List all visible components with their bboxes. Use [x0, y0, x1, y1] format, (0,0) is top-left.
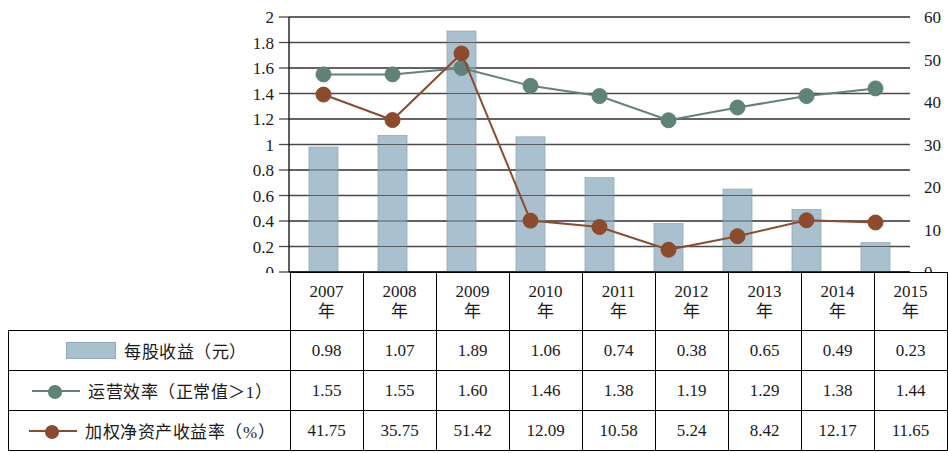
table-cell: 51.42: [436, 411, 509, 451]
table-cell: 5.24: [655, 411, 728, 451]
year-text-part: 年: [437, 302, 509, 321]
table-cell: 12.17: [801, 411, 874, 451]
table-cell: 0.23: [874, 331, 947, 371]
table-header-year-2013年: 2013年: [728, 273, 801, 331]
marker-2009年: [454, 46, 469, 61]
table-cell: 1.46: [509, 371, 582, 411]
marker-2011年: [592, 220, 607, 235]
table-cell: 1.29: [728, 371, 801, 411]
marker-2008年: [385, 113, 400, 128]
legend-label-roe: 加权净资产收益率（%）: [85, 418, 275, 443]
table-cell: 1.60: [436, 371, 509, 411]
marker-2010年: [523, 78, 538, 93]
table-cell: 1.07: [363, 331, 436, 371]
table-row-years: 2007年2008年2009年2010年2011年2012年2013年2014年…: [9, 273, 948, 331]
svg-text:1.6: 1.6: [253, 59, 274, 78]
svg-text:1.8: 1.8: [253, 34, 274, 53]
svg-text:50: 50: [924, 51, 941, 70]
table-cell: 1.44: [874, 371, 947, 411]
chart-region: 00.20.40.60.811.21.41.61.820102030405060: [0, 0, 945, 275]
year-text-part: 年: [510, 302, 582, 321]
year-text-part: 2008: [364, 282, 436, 301]
legend-label-eps: 每股收益（元）: [124, 338, 247, 363]
year-text-part: 年: [729, 302, 801, 321]
svg-text:0.8: 0.8: [253, 161, 274, 180]
svg-text:0.2: 0.2: [253, 238, 274, 257]
table-corner-blank: [9, 273, 291, 331]
year-text-part: 2013: [729, 282, 801, 301]
legend-label-efficiency: 运营效率（正常值＞1）: [88, 378, 272, 403]
table-cell: 1.38: [801, 371, 874, 411]
table-cell: 10.58: [582, 411, 655, 451]
table-cell: 1.55: [290, 371, 363, 411]
year-text-part: 2015: [875, 282, 947, 301]
bar-eps-2008年: [378, 136, 407, 272]
table-cell: 0.38: [655, 331, 728, 371]
legend-item-eps: 每股收益（元）: [9, 331, 291, 371]
year-text-part: 年: [656, 302, 728, 321]
marker-2014年: [799, 89, 814, 104]
table-header-year-2011年: 2011年: [582, 273, 655, 331]
table-cell: 8.42: [728, 411, 801, 451]
legend-item-roe: 加权净资产收益率（%）: [9, 411, 291, 451]
table-header-year-2007年: 2007年: [290, 273, 363, 331]
year-text-part: 2007: [291, 282, 363, 301]
table-cell: 35.75: [363, 411, 436, 451]
year-text-part: 年: [364, 302, 436, 321]
marker-2007年: [316, 87, 331, 102]
combo-chart: 00.20.40.60.811.21.41.61.820102030405060: [0, 0, 945, 275]
table-cell: 0.65: [728, 331, 801, 371]
svg-text:1.2: 1.2: [253, 110, 274, 129]
table-cell: 1.55: [363, 371, 436, 411]
table-header-year-2009年: 2009年: [436, 273, 509, 331]
svg-text:2: 2: [266, 8, 275, 27]
table-header-year-2008年: 2008年: [363, 273, 436, 331]
svg-text:1.4: 1.4: [253, 85, 275, 104]
svg-text:0.4: 0.4: [253, 212, 275, 231]
bar-eps-2010年: [516, 137, 545, 272]
bar-eps-2007年: [309, 147, 338, 272]
table-cell: 1.06: [509, 331, 582, 371]
svg-text:0.6: 0.6: [253, 187, 274, 206]
marker-2013年: [730, 100, 745, 115]
bar-swatch-icon: [66, 342, 116, 359]
bar-eps-2015年: [861, 243, 890, 272]
year-text-part: 2011: [583, 282, 655, 301]
table-cell: 12.09: [509, 411, 582, 451]
marker-2015年: [868, 215, 883, 230]
svg-text:30: 30: [924, 136, 941, 155]
table-cell: 41.75: [290, 411, 363, 451]
table-cell: 1.38: [582, 371, 655, 411]
marker-2015年: [868, 81, 883, 96]
table-cell: 1.89: [436, 331, 509, 371]
table-row-eps: 每股收益（元） 0.981.071.891.060.740.380.650.49…: [9, 331, 948, 371]
table-header-year-2012年: 2012年: [655, 273, 728, 331]
svg-text:20: 20: [924, 178, 941, 197]
legend-item-efficiency: 运营效率（正常值＞1）: [9, 371, 291, 411]
marker-2013年: [730, 229, 745, 244]
table-cell: 0.74: [582, 331, 655, 371]
table-cell: 0.98: [290, 331, 363, 371]
table-cell: 1.19: [655, 371, 728, 411]
table-header-year-2010年: 2010年: [509, 273, 582, 331]
svg-text:60: 60: [924, 8, 941, 27]
svg-text:40: 40: [924, 93, 941, 112]
table-cell: 11.65: [874, 411, 947, 451]
table-row-efficiency: 运营效率（正常值＞1） 1.551.551.601.461.381.191.29…: [9, 371, 948, 411]
marker-2010年: [523, 213, 538, 228]
marker-2011年: [592, 89, 607, 104]
svg-text:10: 10: [924, 221, 941, 240]
line-marker-swatch-icon: [29, 423, 77, 439]
table-cell: 0.49: [801, 331, 874, 371]
year-text-part: 年: [875, 302, 947, 321]
year-text-part: 年: [583, 302, 655, 321]
svg-text:1: 1: [266, 136, 275, 155]
marker-2008年: [385, 67, 400, 82]
table-header-year-2014年: 2014年: [801, 273, 874, 331]
table-header-year-2015年: 2015年: [874, 273, 947, 331]
marker-2014年: [799, 213, 814, 228]
year-text-part: 年: [802, 302, 874, 321]
year-text-part: 年: [291, 302, 363, 321]
data-table: 2007年2008年2009年2010年2011年2012年2013年2014年…: [8, 272, 948, 451]
year-text-part: 2010: [510, 282, 582, 301]
